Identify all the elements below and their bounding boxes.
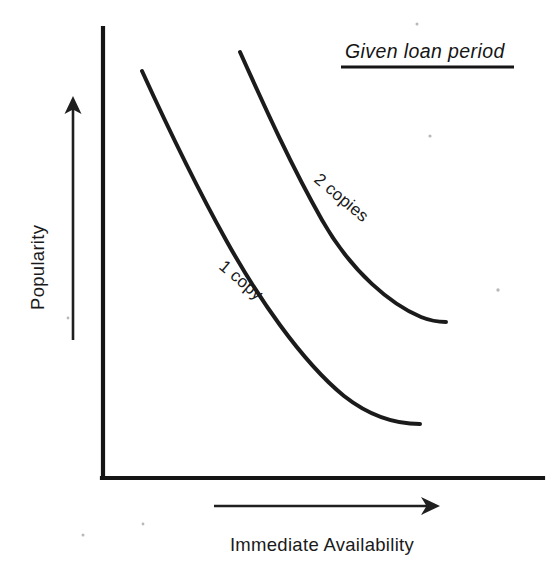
x-axis-label: Immediate Availability [230, 534, 415, 555]
chart-background [0, 0, 557, 568]
scan-speck [67, 317, 70, 320]
chart-title: Given loan period [345, 40, 505, 62]
scan-speck [496, 288, 499, 291]
scan-speck [416, 23, 419, 26]
y-axis-label: Popularity [27, 224, 48, 310]
scan-speck [142, 523, 145, 526]
scan-speck [428, 134, 431, 137]
chart-figure: Popularity Immediate Availability Given … [0, 0, 557, 568]
scan-speck [82, 534, 85, 537]
